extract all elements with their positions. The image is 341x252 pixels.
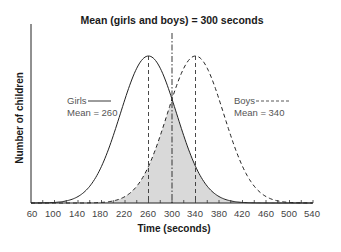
girls-label: Girls <box>67 95 87 106</box>
x-tick-label: 380 <box>211 208 227 219</box>
x-tick-label: 260 <box>140 208 156 219</box>
chart-title: Mean (girls and boys) = 300 seconds <box>81 14 264 26</box>
x-tick-label: 460 <box>258 208 274 219</box>
boys-label: Boys <box>234 95 255 106</box>
x-tick-label: 220 <box>116 208 132 219</box>
boys-mean-label: Mean = 340 <box>234 107 284 118</box>
girls-mean-label: Mean = 260 <box>67 107 117 118</box>
x-tick-label: 300 <box>164 208 180 219</box>
x-axis-tick-labels: 60100140180220260300340380420460500540 <box>27 208 320 219</box>
x-tick-label: 180 <box>92 208 108 219</box>
normal-distribution-chart: Mean (girls and boys) = 300 seconds Girl… <box>0 0 341 252</box>
x-axis-label: Time (seconds) <box>137 223 210 234</box>
x-tick-label: 140 <box>69 208 85 219</box>
x-tick-label: 340 <box>187 208 203 219</box>
x-tick-label: 540 <box>304 208 320 219</box>
x-tick-label: 100 <box>45 208 61 219</box>
x-tick-label: 420 <box>234 208 250 219</box>
y-axis-label: Number of children <box>14 72 25 164</box>
x-tick-label: 60 <box>27 208 38 219</box>
x-tick-label: 500 <box>281 208 297 219</box>
